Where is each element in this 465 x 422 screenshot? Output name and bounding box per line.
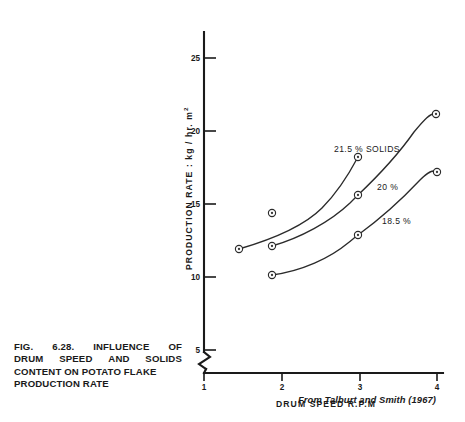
caption-word: SOLIDS <box>145 353 182 365</box>
figure-attribution: From Talburt and Smith (1967) <box>298 394 436 405</box>
series-curves-group <box>239 114 437 275</box>
caption-word: 6.28. <box>52 341 74 353</box>
x-tick-label-2: 2 <box>280 383 285 392</box>
series-curve-21-5 <box>239 157 358 249</box>
figure-caption: FIG. 6.28. INFLUENCE OF DRUM SPEED AND S… <box>14 341 182 391</box>
caption-word: SPEED <box>59 353 92 365</box>
caption-line-4: PRODUCTION RATE <box>14 378 182 390</box>
y-tick-label-5: 5 <box>195 346 200 355</box>
x-tick-label-3: 3 <box>358 383 363 392</box>
data-point-18-5-b <box>354 231 361 238</box>
caption-line-1: FIG. 6.28. INFLUENCE OF <box>14 341 182 353</box>
caption-word: FIG. <box>14 341 33 353</box>
data-point-21-5-c <box>354 153 361 160</box>
data-point-18-5-a <box>268 271 275 278</box>
y-tick-label-10: 10 <box>191 273 201 282</box>
y-axis-title: PRODUCTION RATE : kg / hr. m2 <box>182 106 194 270</box>
axes-group <box>199 32 443 373</box>
data-point-21-5-b-detached <box>268 209 275 216</box>
caption-word: OF <box>168 341 182 353</box>
x-tick-group: 1 2 3 4 <box>202 373 440 392</box>
caption-word: DRUM <box>14 353 43 365</box>
y-axis-title-text: PRODUCTION RATE : kg / hr. m <box>184 111 194 270</box>
series-label-21-5: 21.5 % SOLIDS <box>334 144 400 154</box>
caption-line-2: DRUM SPEED AND SOLIDS <box>14 353 182 365</box>
data-point-20-b <box>354 191 361 198</box>
series-markers-group <box>235 110 440 278</box>
figure-root: 25 20 15 10 5 1 2 3 4 <box>0 0 465 422</box>
data-point-21-5-a <box>235 245 242 252</box>
data-point-20-c <box>432 110 439 117</box>
series-annotations-group: 21.5 % SOLIDS 20 % 18.5 % <box>334 144 411 226</box>
caption-line-3: CONTENT ON POTATO FLAKE <box>14 366 182 378</box>
caption-word: AND <box>108 353 129 365</box>
y-tick-label-25: 25 <box>191 54 201 63</box>
data-point-20-a <box>268 242 275 249</box>
series-curve-18-5 <box>272 171 437 275</box>
caption-word: INFLUENCE <box>93 341 149 353</box>
series-label-18-5: 18.5 % <box>382 216 411 226</box>
x-tick-label-4: 4 <box>435 383 440 392</box>
data-point-18-5-c <box>433 168 440 175</box>
x-tick-label-1: 1 <box>202 383 207 392</box>
y-axis-title-superscript: 2 <box>182 106 189 111</box>
series-label-20: 20 % <box>377 182 398 192</box>
y-axis-break-zigzag <box>199 352 210 369</box>
